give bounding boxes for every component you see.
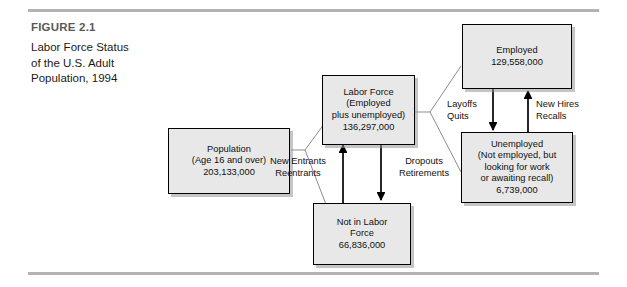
edge-label-dropouts: Dropouts Retirements: [386, 156, 462, 179]
box-labor-force: Labor Force (Employed plus unemployed) 1…: [322, 75, 415, 145]
box-not-in-labor-force: Not in Labor Force 66,836,000: [313, 203, 411, 265]
figure-container: FIGURE 2.1 Labor Force Status of the U.S…: [0, 0, 627, 287]
box-not-in-labor-force-text: Not in Labor Force 66,836,000: [334, 217, 391, 252]
edge-label-new-entrants: New Entrants Reentrants: [255, 156, 341, 179]
box-unemployed-text: Unemployed (Not employed, but looking fo…: [475, 139, 560, 197]
box-labor-force-text: Labor Force (Employed plus unemployed) 1…: [329, 87, 408, 133]
edge-label-new-hires: New Hires Recalls: [536, 99, 602, 122]
edge-label-layoffs: Layoffs Quits: [447, 99, 493, 122]
box-employed: Employed 129,558,000: [462, 24, 572, 89]
box-employed-text: Employed 129,558,000: [488, 45, 546, 68]
box-unemployed: Unemployed (Not employed, but looking fo…: [461, 132, 573, 203]
